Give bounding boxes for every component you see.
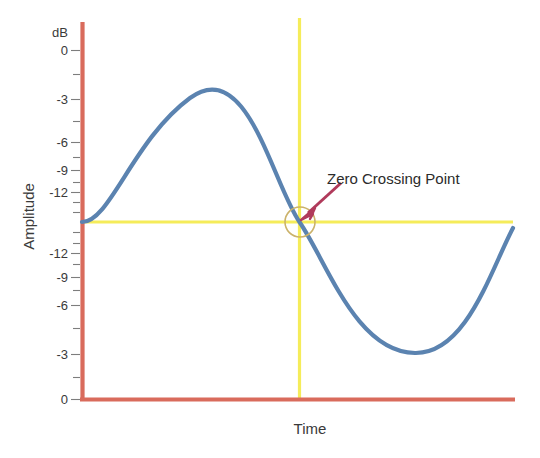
y-tick-label-minus3-lower: -3 [44,347,68,362]
y-axis-title: Amplitude [20,175,37,259]
zero-crossing-annotation-label: Zero Crossing Point [327,170,460,187]
annotation-arrow [301,183,341,220]
x-axis-title: Time [250,420,370,437]
y-tick-label-minus6-lower: -6 [44,298,68,313]
y-axis-unit-label: dB [44,25,68,40]
y-tick-label-minus9-lower: -9 [44,270,68,285]
chart-figure: dB 0 -3 -6 -9 -12 -12 -9 -6 -3 0 Amplitu… [0,0,540,458]
chart-canvas [0,0,540,458]
y-tick-label-0-lower: 0 [44,392,68,407]
y-axis-tick-marks [71,51,80,400]
y-tick-label-0: 0 [44,43,68,58]
y-tick-label-minus3-upper: -3 [44,92,68,107]
y-tick-label-minus6-upper: -6 [44,135,68,150]
y-tick-label-minus12-lower: -12 [40,246,68,261]
y-tick-label-minus9-upper: -9 [44,163,68,178]
y-tick-label-minus12-upper: -12 [40,185,68,200]
